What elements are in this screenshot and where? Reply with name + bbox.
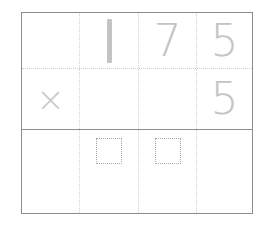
cell-r2c2-answer-box-tens[interactable] (138, 130, 196, 213)
digit-r0c2: 7 (154, 19, 182, 63)
cell-r2c3-answer-slot-ones (196, 130, 252, 213)
cell-r0c2-tens-digit: 7 (138, 13, 196, 68)
digit-r0c3: 5 (211, 19, 239, 63)
cell-r1c1-hundreds-digit (79, 69, 138, 129)
digit-r1c3: 5 (211, 77, 239, 121)
cell-r2c0-answer-slot-thousands (22, 130, 79, 213)
cell-r1c3-ones-digit: 5 (196, 69, 252, 129)
answer-row (22, 130, 252, 213)
cell-r0c3-ones-digit: 5 (196, 13, 252, 68)
worksheet-grid: 1 7 5 × 5 (22, 13, 252, 213)
digit-r0c1: 1 (107, 19, 112, 63)
cell-r1c2-tens-digit (138, 69, 196, 129)
cell-r1c0-operator: × (22, 69, 79, 129)
cell-r0c0-operator-slot (22, 13, 79, 68)
multiplication-worksheet-grid: 1 7 5 × 5 (21, 12, 253, 214)
cell-r0c1-hundreds-digit: 1 (79, 13, 138, 68)
answer-input-box-hundreds[interactable] (96, 138, 122, 164)
multiplier-row: × 5 (22, 69, 252, 130)
multiplication-operator-icon: × (36, 82, 65, 116)
multiplicand-row: 1 7 5 (22, 13, 252, 69)
cell-r2c1-answer-box-hundreds[interactable] (79, 130, 138, 213)
answer-input-box-tens[interactable] (155, 138, 181, 164)
